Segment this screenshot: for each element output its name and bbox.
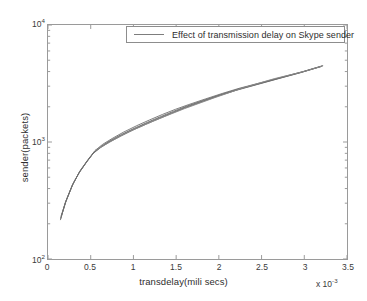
data-series-group (60, 66, 323, 221)
x-tick-text: 1 (131, 262, 136, 272)
series-line (61, 66, 322, 219)
plot-svg (48, 25, 347, 259)
x-axis-tick-label: 2 (199, 263, 239, 272)
x-tick-text: 3 (303, 262, 308, 272)
legend-box[interactable]: Effect of transmission delay on Skype se… (126, 26, 345, 43)
y-tick-mantissa: 10 (32, 137, 41, 147)
x-tick-text: 1.5 (170, 262, 182, 272)
x-multiplier-exponent: -3 (332, 277, 338, 284)
x-axis-title: transdelay(mili secs) (0, 276, 367, 287)
x-tick-text: 3.5 (342, 262, 354, 272)
x-axis-tick-label: 3 (285, 263, 325, 272)
figure-canvas: 104 103 102 0 0.5 1 1.5 2 2.5 3 3.5 tran… (0, 0, 367, 301)
axis-ticks (48, 25, 347, 259)
x-axis-tick-label: 2.5 (242, 263, 282, 272)
plot-area (47, 24, 348, 260)
x-multiplier-base: x 10 (316, 279, 332, 289)
y-axis-title: sender(packets) (19, 78, 30, 218)
series-line (61, 66, 322, 218)
legend-entry-label: Effect of transmission delay on Skype se… (172, 30, 354, 40)
series-line (61, 66, 323, 217)
x-axis-tick-label: 1 (113, 263, 153, 272)
x-tick-text: 0 (45, 262, 50, 272)
y-tick-mantissa: 10 (32, 19, 41, 29)
series-line (95, 66, 323, 151)
y-tick-exponent: 4 (42, 17, 45, 24)
y-axis-tick-label: 104 (0, 20, 45, 29)
series-line (60, 66, 321, 220)
x-tick-text: 2.5 (256, 262, 268, 272)
x-tick-text: 0.5 (84, 262, 96, 272)
x-axis-tick-label: 0 (27, 263, 67, 272)
x-axis-tick-label: 1.5 (156, 263, 196, 272)
y-tick-exponent: 2 (42, 253, 45, 260)
y-tick-exponent: 3 (42, 135, 45, 142)
x-tick-text: 2 (217, 262, 222, 272)
legend-line-swatch (134, 34, 164, 35)
x-axis-tick-label: 3.5 (328, 263, 367, 272)
x-axis-multiplier: x 10-3 (316, 280, 338, 289)
x-axis-tick-label: 0.5 (70, 263, 110, 272)
